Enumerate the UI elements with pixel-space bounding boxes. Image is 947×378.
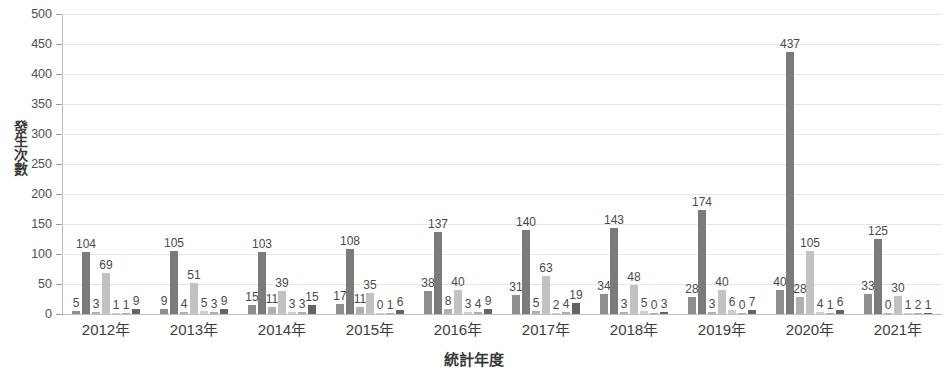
bar[interactable] xyxy=(698,210,706,314)
bar[interactable] xyxy=(180,312,188,314)
bar[interactable] xyxy=(170,251,178,314)
bar[interactable] xyxy=(356,307,364,314)
bar-item[interactable]: 174 xyxy=(698,14,706,314)
bar[interactable] xyxy=(620,312,628,314)
bar-item[interactable]: 38 xyxy=(424,14,432,314)
bar[interactable] xyxy=(688,297,696,314)
bar[interactable] xyxy=(630,285,638,314)
bar-item[interactable]: 35 xyxy=(366,14,374,314)
bar[interactable] xyxy=(522,230,530,314)
bar-item[interactable]: 137 xyxy=(434,14,442,314)
bar-item[interactable]: 40 xyxy=(454,14,462,314)
bar-item[interactable]: 39 xyxy=(278,14,286,314)
bar-item[interactable]: 140 xyxy=(522,14,530,314)
bar[interactable] xyxy=(434,232,442,314)
bar-item[interactable]: 2 xyxy=(914,14,922,314)
bar-item[interactable]: 1 xyxy=(122,14,130,314)
bar[interactable] xyxy=(376,313,384,314)
bar-item[interactable]: 437 xyxy=(786,14,794,314)
bar[interactable] xyxy=(650,313,658,314)
bar[interactable] xyxy=(454,290,462,314)
bar[interactable] xyxy=(92,312,100,314)
bar[interactable] xyxy=(806,251,814,314)
bar[interactable] xyxy=(738,313,746,314)
bar[interactable] xyxy=(836,310,844,314)
bar-item[interactable]: 19 xyxy=(572,14,580,314)
bar[interactable] xyxy=(484,309,492,314)
bar-item[interactable]: 105 xyxy=(806,14,814,314)
bar-item[interactable]: 3 xyxy=(620,14,628,314)
bar[interactable] xyxy=(160,309,168,314)
bar-item[interactable]: 0 xyxy=(738,14,746,314)
bar-item[interactable]: 8 xyxy=(444,14,452,314)
bar-item[interactable]: 28 xyxy=(688,14,696,314)
bar[interactable] xyxy=(308,305,316,314)
bar-item[interactable]: 1 xyxy=(904,14,912,314)
bar[interactable] xyxy=(914,313,922,315)
bar-item[interactable]: 15 xyxy=(308,14,316,314)
bar[interactable] xyxy=(112,313,120,315)
bar[interactable] xyxy=(552,313,560,315)
bar[interactable] xyxy=(72,311,80,314)
bar-item[interactable]: 9 xyxy=(160,14,168,314)
bar[interactable] xyxy=(532,311,540,314)
bar-item[interactable]: 6 xyxy=(396,14,404,314)
bar-item[interactable]: 103 xyxy=(258,14,266,314)
bar[interactable] xyxy=(894,296,902,314)
bar[interactable] xyxy=(210,312,218,314)
bar[interactable] xyxy=(132,309,140,314)
bar[interactable] xyxy=(660,312,668,314)
bar[interactable] xyxy=(816,312,824,314)
bar-item[interactable]: 105 xyxy=(170,14,178,314)
bar-item[interactable]: 5 xyxy=(72,14,80,314)
bar-item[interactable]: 69 xyxy=(102,14,110,314)
bar-item[interactable]: 28 xyxy=(796,14,804,314)
bar[interactable] xyxy=(424,291,432,314)
bar-item[interactable]: 17 xyxy=(336,14,344,314)
bar-item[interactable]: 4 xyxy=(816,14,824,314)
bar-item[interactable]: 1 xyxy=(112,14,120,314)
bar[interactable] xyxy=(904,313,912,315)
bar-item[interactable]: 108 xyxy=(346,14,354,314)
bar[interactable] xyxy=(512,295,520,314)
bar[interactable] xyxy=(864,294,872,314)
bar-item[interactable]: 0 xyxy=(376,14,384,314)
bar-item[interactable]: 34 xyxy=(600,14,608,314)
bar-item[interactable]: 6 xyxy=(728,14,736,314)
bar[interactable] xyxy=(396,310,404,314)
bar-item[interactable]: 3 xyxy=(660,14,668,314)
bar[interactable] xyxy=(776,290,784,314)
bar-item[interactable]: 48 xyxy=(630,14,638,314)
bar[interactable] xyxy=(288,312,296,314)
bar[interactable] xyxy=(728,310,736,314)
bar-item[interactable]: 3 xyxy=(298,14,306,314)
bar-item[interactable]: 3 xyxy=(708,14,716,314)
bar[interactable] xyxy=(884,313,892,314)
bar[interactable] xyxy=(924,313,932,315)
bar-item[interactable]: 51 xyxy=(190,14,198,314)
bar-item[interactable]: 11 xyxy=(268,14,276,314)
bar-item[interactable]: 40 xyxy=(776,14,784,314)
bar[interactable] xyxy=(748,310,756,314)
bar[interactable] xyxy=(786,52,794,314)
bar-item[interactable]: 1 xyxy=(924,14,932,314)
bar-item[interactable]: 3 xyxy=(210,14,218,314)
bar[interactable] xyxy=(718,290,726,314)
bar-item[interactable]: 9 xyxy=(484,14,492,314)
bar[interactable] xyxy=(298,312,306,314)
bar-item[interactable]: 143 xyxy=(610,14,618,314)
bar[interactable] xyxy=(220,309,228,314)
bar-item[interactable]: 11 xyxy=(356,14,364,314)
bar-item[interactable]: 125 xyxy=(874,14,882,314)
bar-item[interactable]: 2 xyxy=(552,14,560,314)
bar[interactable] xyxy=(874,239,882,314)
bar[interactable] xyxy=(268,307,276,314)
bar-item[interactable]: 0 xyxy=(650,14,658,314)
bar[interactable] xyxy=(336,304,344,314)
bar[interactable] xyxy=(708,312,716,314)
bar[interactable] xyxy=(200,311,208,314)
bar-item[interactable]: 9 xyxy=(220,14,228,314)
bar[interactable] xyxy=(572,303,580,314)
bar[interactable] xyxy=(640,311,648,314)
bar[interactable] xyxy=(600,294,608,314)
